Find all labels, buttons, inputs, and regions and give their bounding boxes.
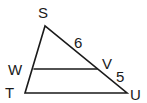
label-w: W bbox=[8, 61, 23, 78]
measure-sv: 6 bbox=[74, 34, 82, 51]
label-s: S bbox=[38, 4, 48, 21]
label-t: T bbox=[5, 84, 14, 101]
measure-vu: 5 bbox=[116, 68, 124, 85]
label-u: U bbox=[130, 86, 141, 103]
label-v: V bbox=[102, 55, 112, 72]
triangle-diagram: S W T V U 6 5 bbox=[0, 0, 147, 103]
